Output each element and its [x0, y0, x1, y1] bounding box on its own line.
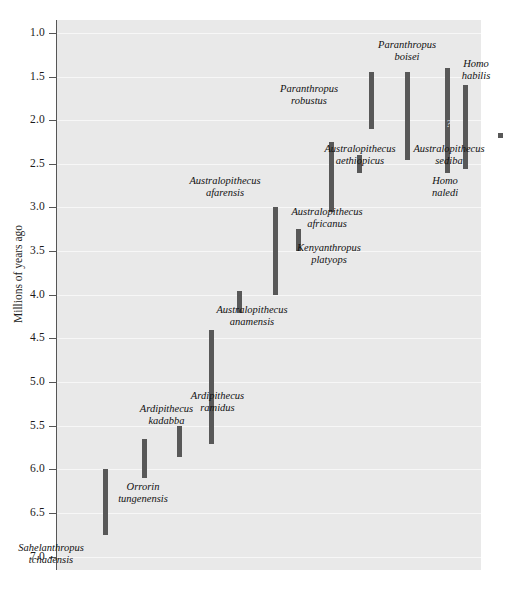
gridline	[57, 469, 481, 470]
label-line-species: boisei	[394, 51, 419, 62]
label-australopithecus-afarensis: Australopithecus afarensis	[158, 175, 292, 198]
y-tick-label-5.0: 5.0	[5, 375, 45, 387]
gridline	[57, 33, 481, 34]
label-line-genus: Orrorin	[127, 481, 160, 492]
y-tick-label-3.5: 3.5	[5, 244, 45, 256]
bar-australopithecus-sediba[interactable]	[498, 133, 503, 138]
bar-ardipithecus-kadabba[interactable]	[177, 426, 182, 457]
y-tick-mark	[49, 426, 56, 427]
y-tick-label-6.0: 6.0	[5, 462, 45, 474]
y-tick-label-1.0: 1.0	[5, 26, 45, 38]
label-line-genus: Kenyanthropus	[297, 242, 361, 253]
y-tick-label-5.5: 5.5	[5, 419, 45, 431]
gridline	[57, 557, 481, 558]
bar-orrorin-tungenensis[interactable]	[142, 439, 147, 478]
y-tick-mark	[49, 207, 56, 208]
y-tick-label-3.0: 3.0	[5, 200, 45, 212]
bar-paranthropus-robustus[interactable]	[369, 72, 374, 129]
label-kenyanthropus-platyops: Kenyanthropus platyops	[247, 242, 411, 265]
label-line-species: anamensis	[230, 316, 274, 327]
y-tick-label-2.5: 2.5	[5, 157, 45, 169]
y-tick-mark	[49, 513, 56, 514]
label-line-species: robustus	[291, 95, 327, 106]
label-line-genus: Australopithecus	[216, 304, 287, 315]
y-tick-mark	[49, 251, 56, 252]
y-axis-title: Millions of years ago	[12, 164, 24, 384]
label-homo-habilis: Homo habilis	[443, 58, 507, 81]
label-australopithecus-sediba: Australopithecus sediba	[375, 143, 507, 166]
y-tick-mark	[49, 33, 56, 34]
label-australopithecus-africanus: Australopithecus africanus	[221, 206, 433, 229]
gridline	[57, 338, 481, 339]
label-line-genus: Australopithecus	[291, 206, 362, 217]
y-tick-label-6.5: 6.5	[5, 506, 45, 518]
label-line-species: kadabba	[148, 415, 184, 426]
y-tick-label-4.5: 4.5	[5, 331, 45, 343]
label-line-species: platyops	[311, 254, 347, 265]
label-sahelanthropus-tchadensis: Sahelanthropus tchadensis	[0, 542, 103, 565]
label-australopithecus-anamensis: Australopithecus anamensis	[185, 304, 319, 327]
y-tick-mark	[49, 382, 56, 383]
y-tick-label-2.0: 2.0	[5, 113, 45, 125]
bar-ardipithecus-ramidus[interactable]	[209, 330, 214, 444]
label-line-genus: Homo	[463, 58, 489, 69]
label-line-species: afarensis	[206, 187, 244, 198]
label-line-genus: Australopithecus	[413, 143, 484, 154]
label-paranthropus-robustus: Paranthropus robustus	[253, 83, 365, 106]
label-homo-naledi: Homo naledi	[412, 175, 478, 198]
label-line-genus: Paranthropus	[378, 39, 436, 50]
label-line-species: africanus	[307, 218, 347, 229]
label-line-genus: Paranthropus	[280, 83, 338, 94]
label-line-species: tungenensis	[118, 493, 168, 504]
y-tick-mark	[49, 295, 56, 296]
y-tick-mark	[49, 77, 56, 78]
y-tick-mark	[49, 120, 56, 121]
y-tick-label-1.5: 1.5	[5, 70, 45, 82]
y-tick-label-4.0: 4.0	[5, 288, 45, 300]
gridline	[57, 295, 481, 296]
label-line-species: tchadensis	[29, 554, 73, 565]
label-line-species: naledi	[432, 187, 458, 198]
y-tick-mark	[49, 338, 56, 339]
label-line-genus: Australopithecus	[189, 175, 260, 186]
gridline	[57, 513, 481, 514]
label-line-species: sediba	[435, 155, 462, 166]
label-line-species: ramidus	[200, 402, 234, 413]
plot-area: ? Sahelanthropus tchadensis Orrorin tung…	[57, 20, 481, 570]
label-ardipithecus-ramidus: Ardipithecus ramidus	[167, 390, 268, 413]
label-line-species: habilis	[462, 70, 491, 81]
y-tick-mark	[49, 469, 56, 470]
label-line-genus: Sahelanthropus	[18, 542, 84, 553]
label-line-genus: Ardipithecus	[191, 390, 244, 401]
label-orrorin-tungenensis: Orrorin tungenensis	[93, 481, 193, 504]
gridline	[57, 120, 481, 121]
y-tick-mark	[49, 164, 56, 165]
label-line-genus: Homo	[432, 175, 458, 186]
gridline	[57, 77, 481, 78]
gridline	[57, 382, 481, 383]
